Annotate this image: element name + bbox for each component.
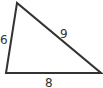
triangle-diagram: 6 9 8: [0, 0, 103, 88]
side-label-hypotenuse: 9: [60, 27, 68, 41]
side-label-base: 8: [45, 76, 53, 88]
triangle-shape: [6, 3, 101, 73]
side-label-left: 6: [0, 33, 8, 47]
